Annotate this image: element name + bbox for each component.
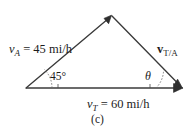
angle-theta-arc [150, 69, 164, 88]
label-angle-theta: θ [145, 70, 151, 82]
label-velocity-a-subscript: A [15, 48, 21, 58]
label-velocity-t-value: = 60 mi/h [98, 97, 150, 111]
label-velocity-t: vT = 60 mi/h [87, 98, 149, 111]
label-angle-45: 45° [50, 71, 66, 83]
vector-va-arrowhead [104, 15, 112, 24]
label-velocity-a: vA = 45 mi/h [9, 43, 72, 56]
figure-caption: (c) [0, 114, 195, 126]
vector-vt-arrow [26, 84, 183, 93]
angle-theta-arc-path [156, 69, 164, 88]
label-velocity-t-symbol: v [87, 97, 93, 111]
vector-triangle-figure: vA = 45 mi/h vT = 60 mi/h vT/A 45° θ (c) [0, 0, 195, 136]
label-velocity-ta-subscript: T/A [163, 48, 178, 58]
label-velocity-a-symbol: v [9, 42, 15, 56]
label-velocity-t-subscript: T [93, 103, 98, 113]
label-velocity-ta: vT/A [157, 43, 178, 56]
label-velocity-a-value: = 45 mi/h [20, 42, 72, 56]
